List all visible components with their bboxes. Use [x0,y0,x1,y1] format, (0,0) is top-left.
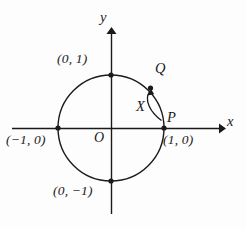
x-axis-arrowhead [219,124,226,134]
point-dot-right-p [161,125,166,130]
point-dot-top [108,72,113,77]
point-label-q: Q [155,61,166,76]
arc-length-label: X [136,99,145,114]
x-axis-label: x [227,114,234,129]
point-dot-left [55,125,60,130]
point-label-1-0: (1, 0) [163,133,193,147]
figure-canvas [0,0,246,229]
point-label-neg1-0: (−1, 0) [6,133,46,147]
point-label-0-neg1: (0, −1) [53,184,93,198]
point-label-p: P [167,110,176,125]
point-dot-bottom [108,178,113,183]
unit-circle-figure: y x (0, 1) (−1, 0) (1, 0) (0, −1) O P Q … [0,0,246,229]
y-axis-label: y [100,10,107,25]
y-axis-arrowhead [107,27,117,34]
point-label-0-1: (0, 1) [57,52,87,66]
origin-label: O [94,131,104,145]
